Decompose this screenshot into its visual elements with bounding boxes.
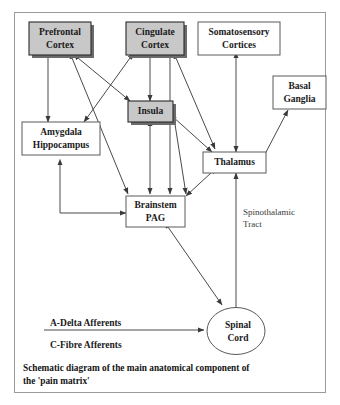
amygdala-hippocampus-label-line2: Hippocampus bbox=[33, 140, 90, 150]
amygdala-hippocampus-label-line1: Amygdala bbox=[40, 127, 82, 137]
node-prefrontal-cortex[interactable]: Prefrontal Cortex bbox=[29, 22, 94, 58]
cingulate-cortex-label-line1: Cingulate bbox=[135, 27, 175, 37]
insula-label: Insula bbox=[138, 106, 164, 116]
spinothalamic-tract-label-line1: Spinothalamic bbox=[243, 207, 295, 217]
spinothalamic-tract-label-line2: Tract bbox=[243, 219, 262, 229]
caption-line-1: Schematic diagram of the main anatomical… bbox=[23, 363, 250, 373]
caption-line-2: the 'pain matrix' bbox=[23, 376, 90, 386]
cingulate-cortex-label-line2: Cortex bbox=[141, 40, 169, 50]
somatosensory-cortices-label-line1: Somatosensory bbox=[208, 27, 269, 37]
node-thalamus[interactable]: Thalamus bbox=[203, 152, 266, 173]
pain-matrix-figure: Prefrontal Cortex Cingulate Cortex Somat… bbox=[0, 0, 340, 405]
node-spinal-cord[interactable]: Spinal Cord bbox=[207, 308, 265, 355]
node-insula[interactable]: Insula bbox=[128, 101, 176, 125]
spinal-cord-label-line2: Cord bbox=[227, 333, 249, 343]
basal-ganglia-label-line2: Ganglia bbox=[283, 94, 315, 104]
node-brainstem-pag[interactable]: Brainstem PAG bbox=[126, 196, 185, 227]
brainstem-pag-label-line2: PAG bbox=[146, 213, 166, 223]
diagram-canvas: Prefrontal Cortex Cingulate Cortex Somat… bbox=[0, 0, 340, 405]
spinal-cord-label-line1: Spinal bbox=[225, 320, 251, 330]
brainstem-pag-label-line1: Brainstem bbox=[134, 200, 176, 210]
node-somatosensory-cortices[interactable]: Somatosensory Cortices bbox=[198, 22, 280, 55]
node-amygdala-hippocampus[interactable]: Amygdala Hippocampus bbox=[22, 122, 100, 155]
thalamus-label: Thalamus bbox=[214, 157, 255, 167]
prefrontal-cortex-label-line1: Prefrontal bbox=[39, 27, 81, 37]
c-fibre-afferents-label: C-Fibre Afferents bbox=[50, 340, 122, 350]
a-delta-afferents-label: A-Delta Afferents bbox=[50, 318, 122, 328]
spinal-cord-ellipse bbox=[207, 308, 265, 355]
prefrontal-cortex-label-line2: Cortex bbox=[46, 40, 74, 50]
node-basal-ganglia[interactable]: Basal Ganglia bbox=[273, 76, 326, 109]
somatosensory-cortices-label-line2: Cortices bbox=[222, 40, 256, 50]
basal-ganglia-label-line1: Basal bbox=[288, 81, 311, 91]
node-cingulate-cortex[interactable]: Cingulate Cortex bbox=[126, 22, 187, 58]
